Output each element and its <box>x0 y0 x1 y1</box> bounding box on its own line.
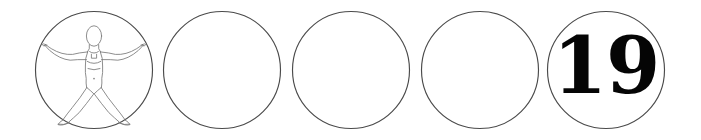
empty-badge-4[interactable] <box>420 10 540 130</box>
empty-badge-2[interactable] <box>162 10 282 130</box>
badge-circle-outline <box>164 12 281 129</box>
vitruvian-figure-icon <box>42 26 145 125</box>
badge-number-label: 19 <box>553 20 660 111</box>
badge-row: 19 <box>0 0 701 140</box>
number-badge[interactable]: 19 <box>546 10 666 130</box>
badge-circle-outline <box>422 12 539 129</box>
badge-circle-outline <box>293 12 410 129</box>
vitruvian-figure-badge[interactable] <box>34 10 154 130</box>
empty-badge-3[interactable] <box>291 10 411 130</box>
